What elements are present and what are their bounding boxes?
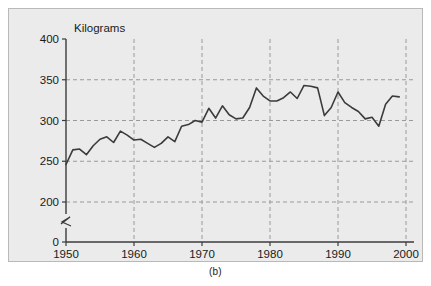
line-chart: 0200250300350400195019601970198019902000… [9, 9, 422, 261]
y-tick-label: 350 [40, 74, 59, 86]
y-axis-title: Kilograms [74, 22, 125, 34]
data-line [66, 85, 399, 164]
y-tick-label: 0 [53, 236, 59, 248]
x-tick-label: 1970 [189, 248, 215, 260]
y-tick-label: 250 [40, 155, 59, 167]
chart-panel: 0200250300350400195019601970198019902000… [8, 8, 423, 262]
axis-break-icon [61, 217, 71, 226]
x-tick-label: 1960 [121, 248, 147, 260]
x-tick-label: 1950 [53, 248, 79, 260]
x-tick-label: 1990 [325, 248, 351, 260]
x-tick-label: 2000 [393, 248, 419, 260]
y-tick-label: 200 [40, 196, 59, 208]
figure-container: 0200250300350400195019601970198019902000… [0, 0, 431, 286]
x-tick-label: 1980 [257, 248, 283, 260]
figure-caption: (b) [0, 266, 431, 277]
y-tick-label: 400 [40, 33, 59, 45]
y-tick-label: 300 [40, 115, 59, 127]
